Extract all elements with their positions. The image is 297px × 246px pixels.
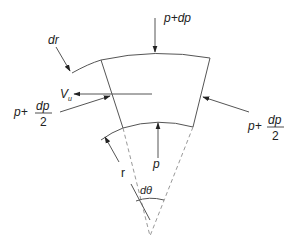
outer-arc: [72, 53, 210, 73]
svg-text:p+: p+: [247, 119, 262, 133]
svg-text:p+: p+: [13, 105, 28, 119]
bottom-pressure-label: p: [152, 157, 160, 171]
top-pressure-label: p+dp: [163, 11, 191, 25]
svg-text:u: u: [68, 95, 72, 102]
thickness-label: dr: [48, 33, 60, 47]
fluid-element-diagram: p+dp p p+ dp 2 p+ dp 2 dr V u r dθ: [0, 0, 297, 246]
angle-label: dθ: [140, 184, 152, 196]
thickness-leader-arrow: [56, 47, 70, 71]
svg-text:dp: dp: [268, 113, 282, 127]
svg-text:2: 2: [40, 115, 47, 129]
radial-line-right: [150, 127, 193, 236]
right-pressure-label: p+ dp 2: [247, 113, 284, 143]
left-pressure-label: p+ dp 2: [13, 99, 52, 129]
svg-text:2: 2: [272, 129, 279, 143]
velocity-label: V u: [60, 87, 72, 102]
element-right-edge: [193, 58, 210, 127]
radial-line-left: [123, 128, 150, 236]
inner-arc: [101, 122, 193, 140]
right-pressure-arrow: [203, 97, 249, 112]
radius-label: r: [121, 166, 125, 180]
svg-text:dp: dp: [36, 99, 50, 113]
radius-arrow: [105, 137, 119, 162]
